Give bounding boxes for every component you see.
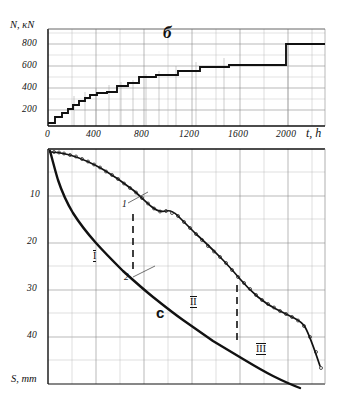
bottom-chart-y-tick-10: 10: [30, 190, 40, 200]
top-chart-y-axis-label: N, кN: [10, 20, 34, 31]
curve-1-label: 1: [122, 200, 127, 210]
top-chart-y-tick-200: 200: [22, 105, 37, 115]
top-chart-y-tick-400: 400: [22, 83, 37, 93]
zone-label-II: II: [190, 296, 197, 308]
zone-label-III: III: [256, 343, 266, 355]
curve-2-label: 2: [124, 273, 129, 283]
top-chart-y-tick-800: 800: [22, 39, 37, 49]
technical-figure: N, кN 800 600 400 200 б 0 400 800 1200 1…: [0, 0, 341, 412]
bottom-chart-grid: [48, 149, 325, 384]
top-chart-grid: [48, 29, 325, 126]
x-tick-800: 800: [134, 130, 149, 140]
bottom-chart-y-tick-20: 20: [27, 237, 37, 247]
x-tick-1200: 1200: [179, 130, 199, 140]
x-tick-1600: 1600: [228, 130, 248, 140]
top-chart-y-tick-600: 600: [22, 61, 37, 71]
top-chart-panel-label: б: [163, 24, 171, 41]
bottom-chart-y-axis-label: S, mm: [11, 374, 37, 385]
bottom-chart-panel-label: c: [156, 305, 164, 320]
bottom-chart-y-tick-30: 30: [27, 284, 37, 294]
x-tick-400: 400: [86, 130, 101, 140]
load-step-curve: [48, 44, 325, 123]
top-chart-droplines: [74, 44, 288, 126]
bottom-chart-axes: [48, 149, 325, 384]
figure-svg: [0, 0, 341, 412]
zone-label-I: I: [93, 250, 96, 262]
settlement-curve-1: [50, 151, 323, 370]
x-axis-label: t, h: [306, 127, 321, 139]
bottom-chart-y-tick-40: 40: [27, 331, 37, 341]
x-tick-2000: 2000: [276, 130, 296, 140]
top-chart-axes: [48, 29, 325, 126]
x-tick-0: 0: [45, 130, 50, 140]
